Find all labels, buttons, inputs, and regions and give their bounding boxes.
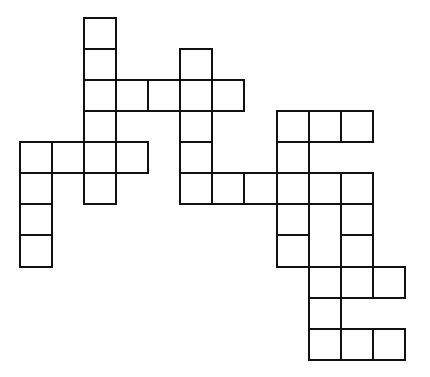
crossword-grid <box>0 0 430 377</box>
grid-lines <box>0 0 430 377</box>
